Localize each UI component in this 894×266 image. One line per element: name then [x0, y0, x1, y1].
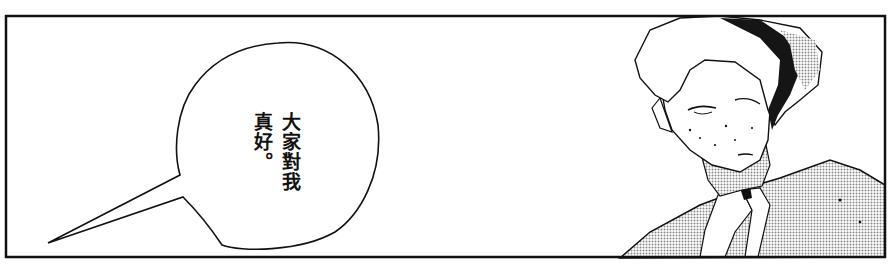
- speech-bubble-text: 大家對我 真好。: [248, 112, 304, 192]
- panel-artwork: [0, 0, 894, 266]
- manga-panel: 大家對我 真好。: [0, 0, 894, 266]
- character-figure: [620, 16, 885, 258]
- speech-line-1: 大家對我: [276, 112, 304, 192]
- speech-bubble: [48, 43, 379, 250]
- speech-line-2: 真好。: [248, 112, 276, 192]
